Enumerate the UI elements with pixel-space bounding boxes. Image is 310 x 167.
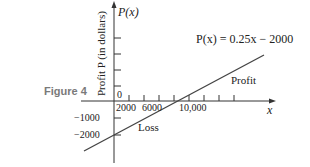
- y-function-label: P(x): [117, 5, 139, 19]
- x-tick-label-6000: 6000: [142, 102, 162, 113]
- loss-label: Loss: [138, 121, 159, 133]
- x-tick-label-10000: 10,000: [179, 102, 207, 113]
- x-ticks: [129, 95, 234, 101]
- y-ticks: [114, 38, 121, 135]
- y-tick-label-neg2000: −2000: [74, 129, 100, 140]
- equation-label: P(x) = 0.25x − 2000: [196, 32, 293, 46]
- y-tick-label-neg1000: −1000: [74, 112, 100, 123]
- profit-line: [84, 55, 264, 151]
- x-axis-label: x: [266, 103, 273, 117]
- profit-chart: Profit P (in dollars) P(x) P(x) = 0.25x …: [0, 0, 310, 167]
- origin-label: 0: [117, 89, 122, 100]
- x-tick-label-2000: 2000: [116, 102, 136, 113]
- y-axis-title: Profit P (in dollars): [95, 11, 108, 96]
- y-axis-arrow-icon: [112, 1, 117, 8]
- profit-label: Profit: [231, 74, 256, 86]
